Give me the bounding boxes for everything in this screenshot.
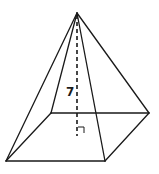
right-angle-marker <box>78 127 84 133</box>
lateral-edge-front-right <box>77 13 105 161</box>
base-edge-left <box>6 113 51 161</box>
lateral-edge-back-right <box>77 13 149 113</box>
pyramid-diagram: 7 <box>0 0 159 174</box>
height-label: 7 <box>66 85 74 99</box>
base-edge-right <box>105 113 149 161</box>
